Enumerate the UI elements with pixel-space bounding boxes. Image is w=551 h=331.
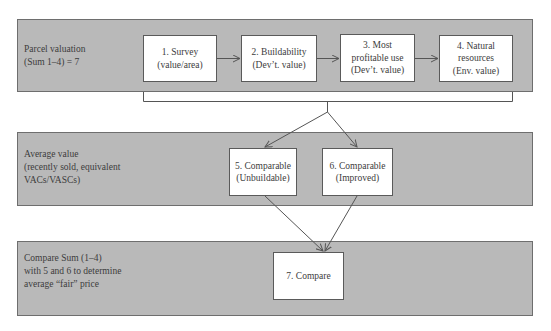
box-line: 1. Survey <box>157 46 202 59</box>
box-line: 3. Most <box>351 39 404 52</box>
box-line: profitable use <box>351 52 404 65</box>
box-line: 4. Natural <box>453 40 499 53</box>
survey-box: 1. Survey (value/area) <box>143 35 217 82</box>
sum-bracket <box>144 92 513 102</box>
label-line: Average value <box>24 148 120 161</box>
label-line: Compare Sum (1–4) <box>24 252 121 265</box>
box-line: 7. Compare <box>286 270 330 283</box>
box-line: (value/area) <box>157 59 202 72</box>
comparable-improved-box: 6. Comparable (Improved) <box>322 148 393 196</box>
parcel-valuation-label: Parcel valuation (Sum 1–4) = 7 <box>24 43 85 69</box>
box-line: resources <box>453 52 499 65</box>
box-line: (Unbuildable) <box>235 172 291 185</box>
box-line: 5. Comparable <box>235 160 291 173</box>
box-line: 6. Comparable <box>330 160 386 173</box>
box-line: (Dev’t. value) <box>351 64 404 77</box>
label-line: VACs/VASCs) <box>24 174 120 187</box>
label-line: with 5 and 6 to determine <box>24 265 121 278</box>
box-line: (Improved) <box>330 172 386 185</box>
compare-box: 7. Compare <box>273 252 344 300</box>
label-line: Parcel valuation <box>24 43 85 56</box>
buildability-box: 2. Buildability (Dev’t. value) <box>241 35 317 82</box>
box-line: 2. Buildability <box>252 46 307 59</box>
box-line: (Dev’t. value) <box>252 59 307 72</box>
average-value-label: Average value (recently sold, equivalent… <box>24 148 120 187</box>
compare-label: Compare Sum (1–4) with 5 and 6 to determ… <box>24 252 121 291</box>
comparable-unbuildable-box: 5. Comparable (Unbuildable) <box>229 148 297 196</box>
box-line: (Env. value) <box>453 65 499 78</box>
label-line: average “fair” price <box>24 278 121 291</box>
label-line: (recently sold, equivalent <box>24 161 120 174</box>
most-profitable-use-box: 3. Most profitable use (Dev’t. value) <box>340 34 415 82</box>
natural-resources-box: 4. Natural resources (Env. value) <box>439 35 513 82</box>
label-line: (Sum 1–4) = 7 <box>24 56 85 69</box>
